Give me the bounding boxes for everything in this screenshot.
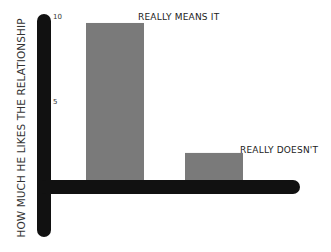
annotation-really-doesnt: REALLY DOESN'T (240, 145, 318, 155)
annotation-really-means-it: REALLY MEANS IT (138, 12, 219, 22)
y-tick-5: 5 (53, 98, 57, 106)
chart-plot (0, 0, 331, 252)
bar-really-means-it (86, 23, 144, 182)
bar-chart: HOW MUCH HE LIKES THE RELATIONSHIP 10 5 … (0, 0, 331, 252)
y-axis-label: HOW MUCH HE LIKES THE RELATIONSHIP (15, 18, 27, 237)
y-tick-10: 10 (53, 13, 62, 21)
bar-really-doesnt (185, 153, 243, 182)
